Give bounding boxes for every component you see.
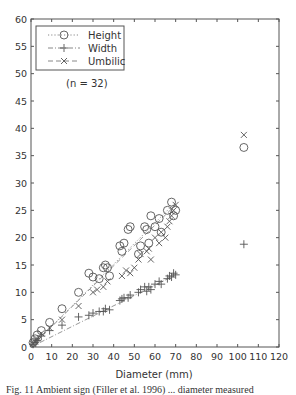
circle-marker bbox=[147, 212, 155, 220]
plus-marker bbox=[106, 306, 114, 314]
legend-label-height: Height bbox=[88, 30, 121, 41]
x-tick-label: 90 bbox=[211, 351, 223, 362]
y-tick-label: 45 bbox=[15, 96, 27, 107]
y-tick-label: 30 bbox=[15, 178, 27, 189]
x-marker bbox=[241, 132, 247, 138]
x-tick-label: 100 bbox=[229, 351, 247, 362]
y-tick-label: 0 bbox=[21, 342, 27, 353]
x-tick-label: 110 bbox=[249, 351, 267, 362]
x-marker bbox=[90, 289, 96, 295]
x-marker bbox=[148, 257, 154, 263]
circle-marker bbox=[101, 261, 109, 269]
y-tick-label: 25 bbox=[15, 205, 27, 216]
y-tick-label: 55 bbox=[15, 41, 27, 52]
plus-marker bbox=[118, 295, 126, 303]
x-marker bbox=[146, 246, 152, 252]
x-tick-label: 120 bbox=[270, 351, 288, 362]
x-axis-label: Diameter (mm) bbox=[115, 369, 192, 380]
sample-size-annotation: (n = 32) bbox=[66, 78, 108, 89]
y-tick-label: 35 bbox=[15, 150, 27, 161]
x-tick-label: 0 bbox=[28, 351, 34, 362]
plus-marker bbox=[240, 240, 248, 248]
circle-marker bbox=[75, 288, 83, 296]
x-tick-label: 30 bbox=[87, 351, 99, 362]
circle-marker bbox=[240, 143, 248, 151]
fit-line-umbilic bbox=[31, 205, 176, 347]
x-marker bbox=[131, 265, 137, 271]
x-marker bbox=[166, 218, 172, 224]
x-marker bbox=[100, 284, 106, 290]
x-marker bbox=[123, 267, 129, 273]
circle-marker bbox=[126, 223, 134, 231]
y-tick-label: 50 bbox=[15, 68, 27, 79]
circle-marker bbox=[124, 225, 132, 233]
circle-marker bbox=[58, 305, 66, 313]
legend-label-umbilic: Umbilic bbox=[88, 56, 125, 67]
x-marker bbox=[164, 224, 170, 230]
y-tick-label: 10 bbox=[15, 287, 27, 298]
x-tick-label: 70 bbox=[170, 351, 182, 362]
x-tick-label: 80 bbox=[190, 351, 202, 362]
x-marker bbox=[156, 240, 162, 246]
circle-marker bbox=[168, 198, 176, 206]
x-tick-label: 20 bbox=[66, 351, 78, 362]
series-umbilic bbox=[30, 132, 247, 347]
x-tick-label: 60 bbox=[149, 351, 161, 362]
plus-marker bbox=[85, 311, 93, 319]
x-marker bbox=[127, 270, 133, 276]
x-marker bbox=[152, 235, 158, 241]
x-tick-label: 10 bbox=[46, 351, 58, 362]
x-marker bbox=[162, 235, 168, 241]
x-marker bbox=[135, 257, 141, 263]
y-tick-label: 20 bbox=[15, 232, 27, 243]
plus-marker bbox=[172, 271, 180, 279]
circle-marker bbox=[141, 223, 149, 231]
legend-label-width: Width bbox=[88, 43, 117, 54]
circle-marker bbox=[137, 242, 145, 250]
x-marker bbox=[94, 287, 100, 293]
plus-marker bbox=[168, 273, 176, 281]
figure-caption: Fig. 11 Ambient sign (Filler et al. 1996… bbox=[6, 384, 296, 395]
y-tick-label: 40 bbox=[15, 123, 27, 134]
x-marker bbox=[158, 229, 164, 235]
x-tick-label: 40 bbox=[108, 351, 120, 362]
x-tick-label: 50 bbox=[128, 351, 140, 362]
plus-marker bbox=[143, 287, 151, 295]
x-marker bbox=[76, 303, 82, 309]
y-tick-label: 60 bbox=[15, 14, 27, 25]
y-tick-label: 15 bbox=[15, 260, 27, 271]
x-marker bbox=[119, 273, 125, 279]
y-tick-label: 5 bbox=[21, 314, 27, 325]
legend: HeightWidthUmbilic bbox=[36, 26, 125, 70]
circle-marker bbox=[143, 225, 151, 233]
plus-marker bbox=[89, 309, 97, 317]
plus-marker bbox=[75, 313, 83, 321]
circle-marker bbox=[118, 247, 126, 255]
